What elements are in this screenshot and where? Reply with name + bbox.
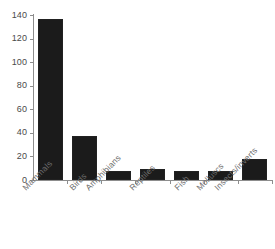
plot-area — [33, 15, 272, 180]
y-tick-label: 120 — [0, 34, 27, 43]
y-tick-label: 140 — [0, 11, 27, 20]
y-tick-label: 20 — [0, 152, 27, 161]
x-tick-mark — [238, 181, 239, 184]
y-tick-label: 100 — [0, 58, 27, 67]
y-tick-label: 60 — [0, 105, 27, 114]
x-tick-mark — [101, 181, 102, 184]
y-tick-label: 40 — [0, 128, 27, 137]
y-tick-label: 80 — [0, 81, 27, 90]
x-tick-mark — [272, 181, 273, 184]
bar-chart: 020406080100120140 MammalsBirdsAmphibian… — [0, 0, 275, 249]
bar-mammals[interactable] — [38, 19, 63, 180]
x-tick-mark — [170, 181, 171, 184]
